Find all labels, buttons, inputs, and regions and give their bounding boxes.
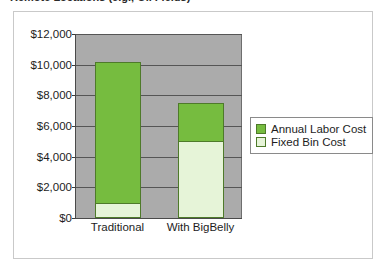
plot-area [76, 34, 242, 218]
y-axis-tick-label: $4,000 [14, 151, 72, 163]
y-axis-tick-label: $0 [14, 212, 72, 224]
legend-item: Fixed Bin Cost [256, 136, 366, 148]
bar-segment-annual-labor-cost [178, 103, 224, 142]
x-axis-category-label: Traditional [76, 221, 159, 233]
legend-swatch-icon [256, 137, 266, 147]
chart-container: $0$2,000$4,000$6,000$8,000$10,000$12,000… [13, 11, 373, 259]
y-axis-tick-label: $12,000 [14, 28, 72, 40]
legend-item: Annual Labor Cost [256, 123, 366, 135]
y-axis-tick-label: $10,000 [14, 59, 72, 71]
legend-item-label: Fixed Bin Cost [271, 136, 346, 148]
page-heading-text: Remote Locations (e.g., Oil Fields) [10, 0, 190, 3]
bar-segment-fixed-bin-cost [95, 203, 141, 218]
clipped-page-heading: Remote Locations (e.g., Oil Fields) [0, 0, 388, 9]
y-axis-tick-label: $2,000 [14, 181, 72, 193]
bar-column [95, 34, 141, 218]
y-axis-tick-label: $6,000 [14, 120, 72, 132]
x-axis-labels: TraditionalWith BigBelly [76, 221, 242, 233]
legend-swatch-icon [256, 124, 266, 134]
x-axis-line [75, 218, 242, 219]
legend-item-label: Annual Labor Cost [271, 123, 366, 135]
chart-legend: Annual Labor CostFixed Bin Cost [250, 117, 373, 154]
y-axis: $0$2,000$4,000$6,000$8,000$10,000$12,000 [14, 34, 72, 218]
y-axis-tick-label: $8,000 [14, 89, 72, 101]
bar-segment-fixed-bin-cost [178, 141, 224, 218]
x-axis-category-label: With BigBelly [159, 221, 242, 233]
bar-segment-annual-labor-cost [95, 62, 141, 204]
bar-column [178, 34, 224, 218]
